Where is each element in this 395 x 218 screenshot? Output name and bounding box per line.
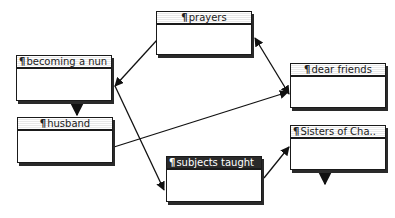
node-label: subjects taught bbox=[176, 157, 254, 168]
diagram-canvas: ¶prayers ¶becoming a nun ¶dear friends ¶… bbox=[0, 0, 395, 218]
text-node-icon: ¶ bbox=[40, 118, 46, 129]
node-husband[interactable]: ¶husband bbox=[17, 117, 113, 163]
node-title: ¶Sisters of Cha.. bbox=[291, 126, 385, 139]
node-label: husband bbox=[47, 118, 90, 129]
node-title: ¶husband bbox=[18, 118, 112, 131]
link-prayers-to-becoming-a-nun[interactable] bbox=[115, 40, 157, 86]
node-label: dear friends bbox=[311, 64, 371, 75]
node-body bbox=[167, 170, 261, 201]
link-prayers-dear-friends[interactable] bbox=[255, 38, 289, 94]
node-label: Sisters of Cha.. bbox=[300, 126, 376, 137]
node-sisters-of-charity[interactable]: ¶Sisters of Cha.. bbox=[290, 125, 386, 170]
link-subjects-taught-to-sisters[interactable] bbox=[264, 147, 289, 178]
node-becoming-a-nun[interactable]: ¶becoming a nun bbox=[16, 55, 112, 101]
node-label: prayers bbox=[189, 12, 227, 23]
node-dear-friends[interactable]: ¶dear friends bbox=[290, 63, 386, 108]
text-node-icon: ¶ bbox=[293, 126, 299, 137]
node-title: ¶prayers bbox=[157, 12, 251, 25]
node-title: ¶subjects taught bbox=[167, 157, 261, 170]
node-prayers[interactable]: ¶prayers bbox=[156, 11, 252, 55]
text-node-icon: ¶ bbox=[169, 157, 175, 168]
node-subjects-taught[interactable]: ¶subjects taught bbox=[166, 156, 262, 202]
node-label: becoming a nun bbox=[26, 56, 107, 67]
text-node-icon: ¶ bbox=[304, 64, 310, 75]
node-body bbox=[291, 139, 385, 169]
link-becoming-a-nun-to-subjects-taught[interactable] bbox=[115, 86, 164, 190]
node-body bbox=[18, 131, 112, 162]
node-title: ¶dear friends bbox=[291, 64, 385, 77]
text-node-icon: ¶ bbox=[19, 56, 25, 67]
node-body bbox=[17, 69, 111, 100]
text-node-icon: ¶ bbox=[181, 12, 187, 23]
node-body bbox=[291, 77, 385, 107]
link-husband-to-dear-friends[interactable] bbox=[114, 92, 288, 147]
node-body bbox=[157, 25, 251, 54]
node-title: ¶becoming a nun bbox=[17, 56, 111, 69]
